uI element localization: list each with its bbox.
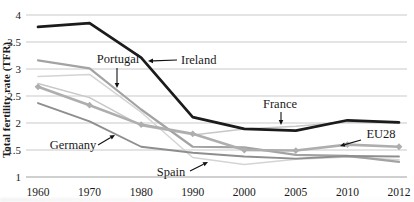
x-tick-label: 1990 <box>181 186 204 198</box>
x-tick-label: 1960 <box>27 186 50 198</box>
annotation-label-france: France <box>263 97 297 111</box>
annotation-label-germany: Germany <box>50 138 97 152</box>
marker-diamond-eu28 <box>86 102 93 109</box>
x-tick-label: 2010 <box>336 186 359 198</box>
series-line-france <box>38 84 399 135</box>
annotation-label-portugal: Portugal <box>97 52 140 66</box>
x-tick-label: 1970 <box>78 186 101 198</box>
scan-artifact <box>0 198 414 202</box>
y-tick-label: 4 <box>16 9 22 21</box>
annotation-arrow-ireland <box>153 60 177 61</box>
annotation-arrowhead-portugal <box>115 83 120 88</box>
marker-diamond-eu28 <box>189 130 196 137</box>
annotation-arrow-germany <box>98 138 111 145</box>
y-tick-label: 3 <box>16 63 22 75</box>
y-tick-label: 2 <box>16 117 22 129</box>
x-tick-label: 1980 <box>130 186 153 198</box>
y-tick-label: 1 <box>16 171 22 183</box>
marker-diamond-eu28 <box>292 147 299 154</box>
marker-diamond-eu28 <box>396 143 403 150</box>
x-tick-label: 2005 <box>284 186 307 198</box>
annotation-label-spain: Spain <box>157 165 186 179</box>
annotation-label-eu28: EU28 <box>366 127 395 141</box>
fertility-rate-chart: 43.532.521.51196019701980199020002005201… <box>0 0 414 202</box>
annotation-label-ireland: Ireland <box>181 53 217 67</box>
chart-canvas: 43.532.521.51196019701980199020002005201… <box>0 0 414 202</box>
annotation-arrow-spain <box>190 164 204 171</box>
y-axis-title: Total fertility rate (TFR) <box>0 42 13 158</box>
x-tick-label: 2000 <box>233 186 256 198</box>
x-tick-label: 2012 <box>388 186 411 198</box>
annotation-arrowhead-ireland <box>148 59 153 64</box>
marker-diamond-eu28 <box>138 121 145 128</box>
